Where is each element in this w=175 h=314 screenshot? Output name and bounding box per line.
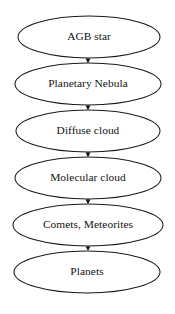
node-molecular-cloud[interactable]: Molecular cloud bbox=[15, 157, 161, 199]
node-agb-star-label: AGB star bbox=[67, 30, 111, 42]
node-planets[interactable]: Planets bbox=[14, 251, 160, 293]
node-comets-meteorites-label: Comets, Meteorites bbox=[43, 218, 134, 230]
edge-comets-to-planets bbox=[86, 246, 91, 251]
node-diffuse-cloud-label: Diffuse cloud bbox=[57, 124, 120, 136]
node-agb-star[interactable]: AGB star bbox=[18, 16, 160, 58]
node-planetary-nebula[interactable]: Planetary Nebula bbox=[15, 63, 161, 105]
node-diffuse-cloud[interactable]: Diffuse cloud bbox=[16, 110, 160, 152]
flowchart-svg: AGB star Planetary Nebula Diffuse cloud … bbox=[0, 0, 175, 314]
node-molecular-cloud-label: Molecular cloud bbox=[50, 171, 126, 183]
node-planets-label: Planets bbox=[70, 265, 104, 277]
node-planetary-nebula-label: Planetary Nebula bbox=[48, 77, 128, 89]
flowchart-canvas: AGB star Planetary Nebula Diffuse cloud … bbox=[0, 0, 175, 314]
edge-comets-to-planets-arrowhead-icon bbox=[86, 247, 91, 251]
node-comets-meteorites[interactable]: Comets, Meteorites bbox=[13, 204, 163, 246]
